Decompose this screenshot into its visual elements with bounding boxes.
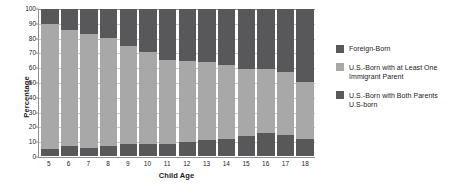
x-tick-label: 8 <box>106 161 110 168</box>
y-tick-label: 80 <box>29 35 36 42</box>
x-tick-label: 15 <box>242 161 249 168</box>
bar-segment <box>296 82 313 139</box>
legend-swatch-icon <box>336 63 344 71</box>
y-tick-label: 50 <box>29 80 36 87</box>
bar-column <box>257 9 274 156</box>
bar-segment <box>277 9 294 72</box>
bar-segment <box>120 46 137 144</box>
bar-segment <box>238 136 255 156</box>
bar-segment <box>218 65 235 139</box>
bar-segment <box>179 9 196 61</box>
x-tick-label: 9 <box>126 161 130 168</box>
bar-segment <box>257 133 274 156</box>
bar-column <box>80 9 97 156</box>
bars-group <box>40 9 315 156</box>
bar-segment <box>238 69 255 137</box>
y-tick-mark <box>36 127 39 128</box>
bar-segment <box>100 146 117 156</box>
legend-item: Foreign-Born <box>336 44 454 54</box>
bar-segment <box>277 72 294 134</box>
bar-segment <box>296 9 313 82</box>
x-tick-label: 5 <box>47 161 51 168</box>
legend-item: U.S.-Born with at Least One Immigrant Pa… <box>336 63 454 82</box>
y-tick-mark <box>36 53 39 54</box>
bar-segment <box>80 9 97 34</box>
bar-segment <box>120 9 137 46</box>
y-tick-label: 70 <box>29 50 36 57</box>
x-tick-label: 7 <box>86 161 90 168</box>
bar-column <box>120 9 137 156</box>
bar-segment <box>41 149 58 156</box>
y-tick-mark <box>36 23 39 24</box>
y-tick-label: 100 <box>25 6 36 13</box>
bar-segment <box>61 9 78 30</box>
bar-column <box>139 9 156 156</box>
y-tick-label: 0 <box>32 154 36 161</box>
bar-segment <box>218 139 235 156</box>
bar-segment <box>179 142 196 156</box>
bar-column <box>198 9 215 156</box>
y-tick-mark <box>36 157 39 158</box>
bar-segment <box>120 144 137 156</box>
x-tick-label: 6 <box>67 161 71 168</box>
y-tick-mark <box>36 142 39 143</box>
y-tick-mark <box>36 83 39 84</box>
bar-segment <box>198 140 215 156</box>
bar-segment <box>198 62 215 140</box>
bar-segment <box>277 135 294 156</box>
bar-segment <box>179 61 196 142</box>
bar-segment <box>218 9 235 65</box>
legend-swatch-icon <box>336 45 344 53</box>
bar-column <box>296 9 313 156</box>
bar-column <box>61 9 78 156</box>
x-tick-label: 14 <box>223 161 230 168</box>
x-tick-label: 17 <box>282 161 289 168</box>
legend: Foreign-BornU.S.-Born with at Least One … <box>336 44 454 119</box>
legend-label: Foreign-Born <box>349 44 390 54</box>
bar-segment <box>80 34 97 148</box>
y-tick-label: 40 <box>29 95 36 102</box>
x-tick-label: 13 <box>203 161 210 168</box>
y-tick-label: 20 <box>29 124 36 131</box>
bar-segment <box>257 9 274 69</box>
bar-segment <box>61 30 78 146</box>
bar-segment <box>198 9 215 62</box>
plot-wrapper: 0102030405060708090100 56789101112131415… <box>38 9 315 158</box>
bar-column <box>179 9 196 156</box>
bar-segment <box>296 139 313 156</box>
bar-column <box>159 9 176 156</box>
x-axis-title: Child Age <box>38 171 315 180</box>
bar-column <box>41 9 58 156</box>
chart-figure: Percentage 0102030405060708090100 567891… <box>0 0 457 194</box>
bar-segment <box>139 144 156 156</box>
bar-segment <box>257 69 274 133</box>
bar-segment <box>159 60 176 144</box>
bar-segment <box>159 9 176 60</box>
bar-segment <box>41 24 58 149</box>
bar-segment <box>100 9 117 38</box>
bar-segment <box>139 9 156 52</box>
bar-column <box>100 9 117 156</box>
y-tick-mark <box>36 97 39 98</box>
y-tick-label: 90 <box>29 21 36 28</box>
bar-column <box>218 9 235 156</box>
bar-segment <box>80 148 97 156</box>
y-tick-mark <box>36 9 39 10</box>
bar-segment <box>139 52 156 145</box>
bar-segment <box>100 38 117 145</box>
y-tick-mark <box>36 112 39 113</box>
y-tick-label: 10 <box>29 139 36 146</box>
x-tick-label: 18 <box>302 161 309 168</box>
bar-segment <box>41 9 58 24</box>
bar-column <box>238 9 255 156</box>
y-tick-mark <box>36 68 39 69</box>
legend-label: U.S.-Born with Both Parents U.S-born <box>349 91 454 110</box>
bar-segment <box>159 144 176 156</box>
legend-item: U.S.-Born with Both Parents U.S-born <box>336 91 454 110</box>
legend-label: U.S.-Born with at Least One Immigrant Pa… <box>349 63 454 82</box>
y-tick-label: 60 <box>29 65 36 72</box>
y-tick-mark <box>36 38 39 39</box>
x-tick-label: 10 <box>144 161 151 168</box>
legend-swatch-icon <box>336 91 344 99</box>
bar-segment <box>238 9 255 69</box>
